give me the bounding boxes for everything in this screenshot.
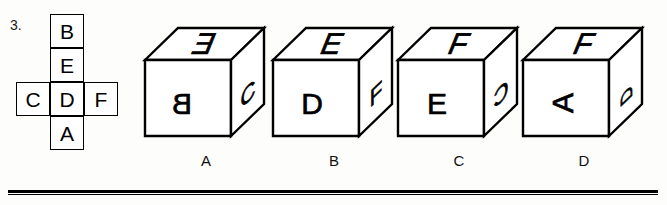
net-cell-right: F [84, 82, 118, 116]
option-cube-a[interactable]: E B C [140, 18, 272, 143]
option-label-d: D [518, 152, 650, 169]
bottom-rule [8, 190, 658, 193]
net-cell-center: D [50, 82, 84, 116]
cube-d-front-letter: A [546, 93, 579, 113]
cube-a-front-letter: B [172, 87, 192, 120]
cube-net-diagram: B E C D F A [14, 14, 124, 149]
option-label-b: B [268, 152, 400, 169]
option-cube-d[interactable]: F A D [518, 18, 650, 143]
option-label-c: C [393, 152, 525, 169]
option-label-a: A [140, 152, 272, 169]
net-cell-left: C [16, 82, 50, 116]
net-cell-top: B [50, 14, 84, 48]
net-cell-bottom: A [50, 116, 84, 150]
net-cell-upper-middle: E [50, 48, 84, 82]
bottom-rule-shadow [8, 194, 658, 195]
option-cube-c[interactable]: F E C [393, 18, 525, 143]
cube-c-front-letter: E [427, 87, 447, 120]
option-cube-b[interactable]: E D F [268, 18, 400, 143]
worksheet-page: 3. B E C D F A E B C [0, 0, 667, 205]
cube-b-front-letter: D [301, 87, 323, 120]
